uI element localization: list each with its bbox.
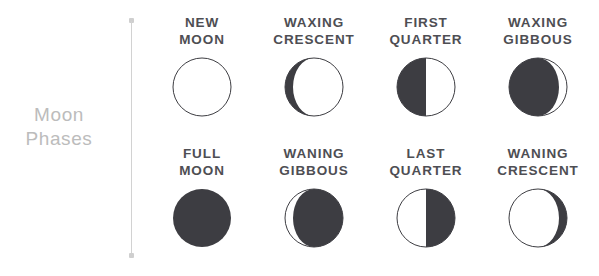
phase-label-line-1: WANING — [279, 145, 348, 162]
phase-label-line-1: FULL — [179, 145, 225, 162]
full-moon-icon — [172, 188, 232, 248]
page-title-line-2: Phases — [0, 127, 118, 151]
phase-label-line-2: QUARTER — [389, 162, 462, 179]
phase-label-line-1: WAXING — [503, 14, 572, 31]
phase-item: WANING CRESCENT — [482, 139, 594, 270]
phase-item: WAXING CRESCENT — [258, 8, 370, 139]
first-quarter-moon-icon — [396, 57, 456, 117]
moon-phases-infographic: Moon Phases NEW MOON WAXING CRESCENT — [0, 0, 599, 276]
phase-label-line-2: MOON — [179, 162, 225, 179]
phase-label-line-1: LAST — [389, 145, 462, 162]
page-title: Moon Phases — [0, 103, 118, 151]
phase-label: WAXING CRESCENT — [273, 14, 354, 48]
phase-label: WANING CRESCENT — [497, 145, 578, 179]
waning-crescent-moon-icon — [508, 188, 568, 248]
phase-label-line-1: WANING — [497, 145, 578, 162]
phase-label: WANING GIBBOUS — [279, 145, 348, 179]
waxing-gibbous-moon-icon — [508, 57, 568, 117]
last-quarter-moon-icon — [396, 188, 456, 248]
phase-label: FULL MOON — [179, 145, 225, 179]
phase-item: NEW MOON — [146, 8, 258, 139]
new-moon-icon — [172, 57, 232, 117]
phase-label-line-2: CRESCENT — [497, 162, 578, 179]
phase-item: WAXING GIBBOUS — [482, 8, 594, 139]
phase-label-line-1: WAXING — [273, 14, 354, 31]
waxing-crescent-moon-icon — [284, 57, 344, 117]
phase-label: NEW MOON — [179, 14, 225, 48]
phase-item: WANING GIBBOUS — [258, 139, 370, 270]
waning-gibbous-moon-icon — [284, 188, 344, 248]
phase-label: FIRST QUARTER — [389, 14, 462, 48]
phase-item: FIRST QUARTER — [370, 8, 482, 139]
divider-rule — [131, 21, 132, 255]
phase-label-line-2: MOON — [179, 31, 225, 48]
divider-dot-bottom — [129, 253, 134, 258]
phase-label-line-1: NEW — [179, 14, 225, 31]
phase-label: WAXING GIBBOUS — [503, 14, 572, 48]
phase-label-line-1: FIRST — [389, 14, 462, 31]
phase-label-line-2: GIBBOUS — [279, 162, 348, 179]
vertical-divider — [130, 18, 132, 258]
phase-label-line-2: GIBBOUS — [503, 31, 572, 48]
phase-item: LAST QUARTER — [370, 139, 482, 270]
phase-item: FULL MOON — [146, 139, 258, 270]
phase-label-line-2: QUARTER — [389, 31, 462, 48]
phase-label: LAST QUARTER — [389, 145, 462, 179]
page-title-line-1: Moon — [0, 103, 118, 127]
moon-phase-grid: NEW MOON WAXING CRESCENT — [146, 8, 594, 270]
phase-label-line-2: CRESCENT — [273, 31, 354, 48]
